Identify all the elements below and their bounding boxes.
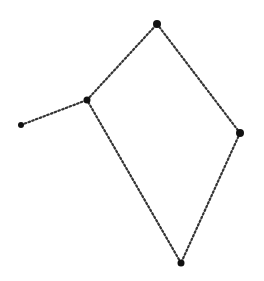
node-top [153,20,161,28]
nodes-group [18,20,244,267]
edge-bottom-junction [87,100,181,263]
graph-diagram [0,0,264,281]
edge-left-end-junction [21,100,87,125]
node-left-end [18,122,24,128]
edge-junction-top [87,24,157,100]
edge-right-bottom [181,133,240,263]
edges-group [21,24,240,263]
node-right [236,129,244,137]
edge-top-right [157,24,240,133]
node-bottom [178,260,185,267]
node-junction [84,97,91,104]
